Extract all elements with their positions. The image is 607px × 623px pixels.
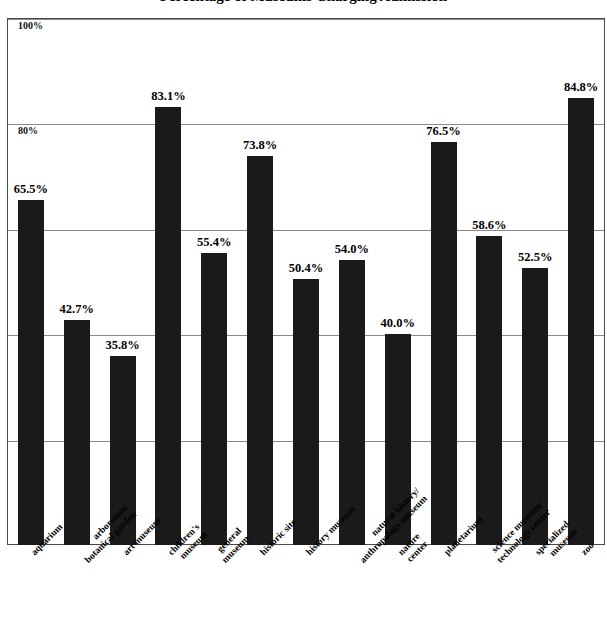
bar-value-label: 54.0% bbox=[335, 243, 369, 256]
bar-slot: 55.4% bbox=[191, 19, 237, 545]
x-label-slot: aquarium bbox=[8, 548, 54, 623]
x-label-slot: specializedmuseum bbox=[512, 548, 558, 623]
bar[interactable] bbox=[339, 260, 365, 545]
bar-value-label: 84.8% bbox=[564, 81, 598, 94]
bar-slot: 83.1% bbox=[146, 19, 192, 545]
bar-value-label: 73.8% bbox=[243, 139, 277, 152]
bar-slot: 35.8% bbox=[100, 19, 146, 545]
x-label-slot: children'smuseum bbox=[146, 548, 192, 623]
bars-layer: 65.5%42.7%35.8%83.1%55.4%73.8%50.4%54.0%… bbox=[8, 19, 604, 545]
x-label-slot: natural history/anthropology museum bbox=[329, 548, 375, 623]
bar-value-label: 65.5% bbox=[14, 183, 48, 196]
bar-slot: 65.5% bbox=[8, 19, 54, 545]
bar[interactable] bbox=[18, 200, 44, 545]
bar-value-label: 35.8% bbox=[105, 339, 139, 352]
bar-value-label: 55.4% bbox=[197, 236, 231, 249]
bar-chart: Percentage of Museums Charging Admission… bbox=[0, 0, 607, 623]
x-label-slot: arboretum/botanical garden bbox=[54, 548, 100, 623]
bar-slot: 50.4% bbox=[283, 19, 329, 545]
bar-slot: 84.8% bbox=[558, 19, 604, 545]
bar[interactable] bbox=[293, 279, 319, 545]
bar-value-label: 40.0% bbox=[381, 317, 415, 330]
x-label-slot: planetarium bbox=[421, 548, 467, 623]
page-title: Percentage of Museums Charging Admission bbox=[0, 0, 607, 5]
bar-slot: 42.7% bbox=[54, 19, 100, 545]
x-label-slot: zoo bbox=[558, 548, 604, 623]
x-label-slot: art museum bbox=[100, 548, 146, 623]
x-label-slot: historic site bbox=[237, 548, 283, 623]
bar-value-label: 50.4% bbox=[289, 262, 323, 275]
x-label-slot: naturecenter bbox=[375, 548, 421, 623]
bar[interactable] bbox=[476, 236, 502, 545]
x-label-slot: generalmuseum bbox=[191, 548, 237, 623]
bar-slot: 76.5% bbox=[421, 19, 467, 545]
bar[interactable] bbox=[201, 253, 227, 545]
bar-value-label: 76.5% bbox=[426, 125, 460, 138]
bar-slot: 54.0% bbox=[329, 19, 375, 545]
x-label-slot: science museum/technology center bbox=[466, 548, 512, 623]
bar[interactable] bbox=[155, 107, 181, 545]
bar-value-label: 52.5% bbox=[518, 251, 552, 264]
bar[interactable] bbox=[247, 156, 273, 545]
bar[interactable] bbox=[568, 98, 594, 545]
x-label-slot: history museum bbox=[283, 548, 329, 623]
bar-slot: 73.8% bbox=[237, 19, 283, 545]
chart-title-clipped: Percentage of Museums Charging Admission bbox=[0, 0, 607, 9]
bar-slot: 58.6% bbox=[466, 19, 512, 545]
bar-slot: 40.0% bbox=[375, 19, 421, 545]
x-axis-category-labels: aquariumarboretum/botanical gardenart mu… bbox=[8, 548, 604, 623]
bar-slot: 52.5% bbox=[512, 19, 558, 545]
bar-value-label: 42.7% bbox=[60, 303, 94, 316]
bar-value-label: 58.6% bbox=[472, 219, 506, 232]
bar[interactable] bbox=[64, 320, 90, 545]
bar[interactable] bbox=[431, 142, 457, 545]
bar-value-label: 83.1% bbox=[151, 90, 185, 103]
